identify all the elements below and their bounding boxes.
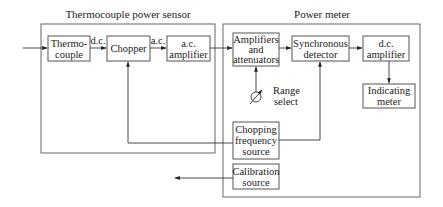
svg-text:source: source bbox=[242, 146, 270, 157]
variable-control-icon[interactable] bbox=[250, 90, 262, 104]
svg-text:a.c.: a.c. bbox=[181, 38, 196, 49]
meter-group-title: Power meter bbox=[294, 8, 350, 20]
ac-amplifier-block: a.c. amplifier bbox=[167, 36, 210, 61]
svg-text:Chopper: Chopper bbox=[110, 43, 147, 54]
svg-text:couple: couple bbox=[55, 49, 83, 60]
svg-text:Thermo-: Thermo- bbox=[51, 38, 88, 49]
amplifiers-attenuators-block: Amplifiers and attenuators bbox=[233, 33, 279, 66]
ac-signal-label: a.c. bbox=[151, 35, 166, 46]
svg-text:attenuators: attenuators bbox=[233, 54, 279, 65]
indicating-meter-block: Indicating meter bbox=[363, 84, 415, 108]
svg-text:Calibration: Calibration bbox=[232, 166, 280, 177]
dc-amplifier-block: d.c. amplifier bbox=[363, 36, 409, 61]
chopper-block: Chopper bbox=[107, 36, 150, 61]
svg-text:amplifier: amplifier bbox=[367, 49, 406, 60]
svg-text:Chopping: Chopping bbox=[235, 124, 277, 135]
thermocouple-block: Thermo- couple bbox=[48, 36, 90, 61]
svg-text:detector: detector bbox=[304, 49, 338, 60]
svg-text:d.c.: d.c. bbox=[378, 38, 393, 49]
range-select-label-line2: select bbox=[274, 96, 298, 107]
svg-text:amplifier: amplifier bbox=[169, 49, 208, 60]
chopping-frequency-source-block: Chopping frequency source bbox=[233, 122, 279, 159]
svg-text:Indicating: Indicating bbox=[368, 85, 411, 96]
range-select-label-line1: Range bbox=[273, 85, 300, 96]
svg-text:frequency: frequency bbox=[235, 135, 278, 146]
chopping-to-chopper-line bbox=[128, 62, 233, 143]
calibration-source-block: Calibration source bbox=[232, 164, 280, 189]
synchronous-detector-block: Synchronous detector bbox=[292, 36, 349, 61]
svg-text:Synchronous: Synchronous bbox=[293, 38, 348, 49]
sensor-group-title: Thermocouple power sensor bbox=[65, 8, 191, 20]
block-diagram: Thermocouple power sensor Power meter Th… bbox=[0, 0, 443, 207]
svg-text:source: source bbox=[242, 177, 270, 188]
dc-signal-label: d.c. bbox=[90, 35, 105, 46]
svg-text:meter: meter bbox=[377, 96, 401, 107]
